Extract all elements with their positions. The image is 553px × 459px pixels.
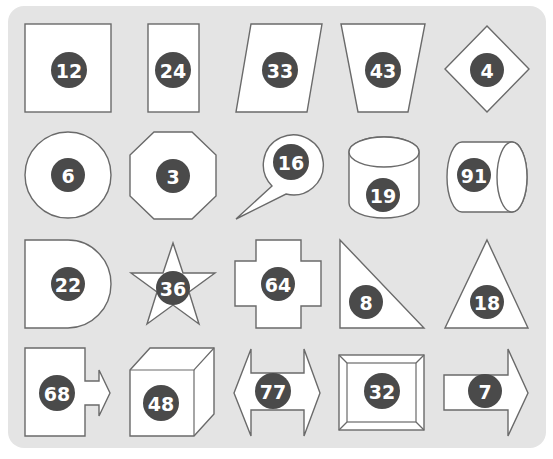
- shape-d-shape: 22: [25, 240, 111, 328]
- number-label: 12: [56, 60, 82, 82]
- number-label: 6: [61, 165, 74, 187]
- shape-triangle: 18: [445, 240, 528, 328]
- shape-double-arrow: 77: [234, 349, 320, 436]
- shape-speech-bubble: 16: [236, 135, 323, 219]
- number-label: 77: [260, 381, 286, 403]
- shape-circle: 6: [25, 132, 111, 218]
- number-label: 8: [359, 292, 372, 314]
- shape-diamond: 4: [445, 26, 529, 112]
- shape-trapezoid: 43: [341, 24, 425, 112]
- shape-tall-rectangle: 24: [148, 24, 199, 112]
- shape-beveled-frame: 32: [339, 355, 424, 430]
- shape-right-arrow: 7: [444, 349, 528, 436]
- number-label: 43: [370, 60, 396, 82]
- number-label: 24: [160, 60, 186, 82]
- shape-horizontal-cylinder: 91: [447, 142, 527, 212]
- number-label: 7: [478, 381, 491, 403]
- number-label: 48: [148, 393, 174, 415]
- number-label: 91: [461, 165, 487, 187]
- shapes-canvas: 12 24 33 43 4 6 3 16 19: [0, 0, 553, 459]
- shape-right-triangle: 8: [340, 240, 424, 328]
- number-label: 36: [160, 278, 186, 300]
- number-label: 3: [166, 166, 179, 188]
- number-label: 64: [265, 274, 291, 296]
- number-label: 19: [370, 185, 396, 207]
- number-label: 33: [267, 60, 293, 82]
- shape-square: 12: [25, 24, 111, 112]
- shape-cube: 48: [130, 348, 214, 436]
- number-label: 22: [55, 274, 81, 296]
- shape-parallelogram: 33: [236, 24, 322, 112]
- number-label: 16: [278, 152, 304, 174]
- shape-square-with-arrow: 68: [25, 348, 110, 436]
- shape-vertical-cylinder: 19: [349, 137, 419, 218]
- number-label: 4: [480, 60, 493, 82]
- shape-cross: 64: [235, 240, 321, 328]
- shape-octagon: 3: [130, 132, 216, 219]
- number-label: 32: [369, 381, 395, 403]
- number-label: 18: [474, 292, 500, 314]
- number-label: 68: [44, 383, 70, 405]
- shape-star: 36: [131, 243, 215, 324]
